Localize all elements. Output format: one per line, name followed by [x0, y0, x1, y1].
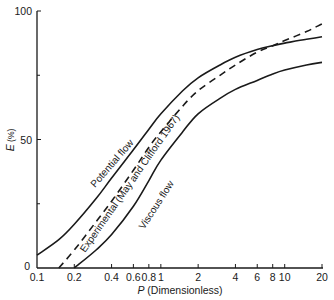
- x-tick-label: 20: [316, 271, 328, 283]
- x-tick-label: 0.6: [126, 271, 141, 283]
- x-tick-label: 4: [233, 271, 239, 283]
- y-tick-label: 50: [20, 134, 32, 146]
- efficiency-chart: 050100 0.10.20.40.60.8124681020 P (Dimen…: [0, 0, 334, 300]
- x-tick-label: 1: [158, 271, 164, 283]
- x-axis-title: P (Dimensionless): [137, 284, 222, 296]
- label-viscous-flow: Viscous flow: [136, 178, 176, 231]
- x-tick-label: 2: [195, 271, 201, 283]
- y-axis-title: E (%): [4, 129, 16, 152]
- x-tick-label: 10: [279, 271, 291, 283]
- y-tick-label: 100: [14, 5, 32, 17]
- x-tick-label: 0.2: [67, 271, 82, 283]
- x-tick-label: 0.8: [142, 271, 157, 283]
- curve-potential-flow: [37, 37, 322, 256]
- x-tick-label: 6: [254, 271, 260, 283]
- x-tick-label: 8: [270, 271, 276, 283]
- x-tick-label: 0.1: [30, 271, 45, 283]
- x-tick-label: 0.4: [104, 271, 119, 283]
- curves: [37, 24, 322, 268]
- axes: [37, 11, 323, 268]
